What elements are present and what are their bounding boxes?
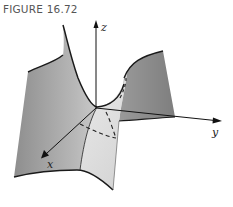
- saddle-surface-figure: z y x: [0, 0, 233, 207]
- y-axis-arrowhead: [213, 118, 223, 124]
- x-axis-label: x: [47, 158, 54, 171]
- y-axis-label: y: [211, 126, 219, 139]
- surface-right-sheet: [119, 51, 175, 121]
- z-axis-arrowhead: [94, 20, 99, 28]
- z-axis-label: z: [100, 21, 107, 34]
